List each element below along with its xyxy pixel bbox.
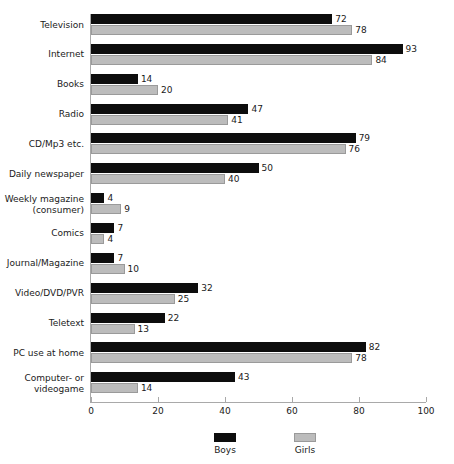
category-label: Books (0, 79, 84, 90)
chart-category-row: Television7278 (0, 14, 454, 44)
bar-value-label: 93 (406, 44, 417, 54)
category-label: Teletext (0, 318, 84, 329)
category-label: PC use at home (0, 348, 84, 359)
bar-value-label: 43 (238, 372, 249, 382)
bar-girls (91, 324, 135, 334)
bar-value-label: 76 (349, 144, 360, 154)
bar-boys (91, 372, 235, 382)
chart-category-row: Weekly magazine (consumer)49 (0, 193, 454, 223)
bar-value-label: 79 (359, 133, 370, 143)
bar-value-label: 7 (117, 223, 123, 233)
grouped-bar-chart: 020406080100 Television7278Internet9384B… (0, 0, 454, 464)
bar-girls (91, 383, 138, 393)
chart-category-row: Computer- or videogame4314 (0, 372, 454, 402)
bar-value-label: 14 (141, 383, 152, 393)
chart-category-row: Comics74 (0, 223, 454, 253)
bar-girls (91, 25, 352, 35)
category-label: Television (0, 20, 84, 31)
bar-value-label: 40 (228, 174, 239, 184)
category-label: Comics (0, 228, 84, 239)
bar-value-label: 82 (369, 342, 380, 352)
bar-boys (91, 104, 248, 114)
bar-boys (91, 283, 198, 293)
chart-category-row: PC use at home8278 (0, 342, 454, 372)
legend-swatch-boys (214, 433, 236, 442)
bar-boys (91, 14, 332, 24)
legend-entry-girls[interactable]: Girls (285, 433, 325, 455)
x-tick-label: 20 (152, 406, 163, 416)
bar-girls (91, 115, 228, 125)
bar-value-label: 32 (201, 283, 212, 293)
bar-boys (91, 193, 104, 203)
category-label: Journal/Magazine (0, 258, 84, 269)
bar-boys (91, 163, 259, 173)
chart-category-row: Video/DVD/PVR3225 (0, 283, 454, 313)
chart-legend: BoysGirls (90, 433, 426, 459)
bar-value-label: 25 (178, 294, 189, 304)
chart-category-row: Books1420 (0, 74, 454, 104)
x-tick-label: 60 (286, 406, 297, 416)
x-axis-line (90, 402, 426, 403)
category-label: CD/Mp3 etc. (0, 139, 84, 150)
bar-girls (91, 264, 125, 274)
bar-value-label: 50 (262, 163, 273, 173)
bar-boys (91, 223, 114, 233)
legend-entry-boys[interactable]: Boys (205, 433, 245, 455)
bar-value-label: 13 (138, 324, 149, 334)
bar-value-label: 14 (141, 74, 152, 84)
x-tick-label: 80 (353, 406, 364, 416)
bar-girls (91, 85, 158, 95)
legend-label: Boys (205, 445, 245, 455)
bar-boys (91, 74, 138, 84)
bar-value-label: 78 (355, 25, 366, 35)
bar-value-label: 7 (117, 253, 123, 263)
legend-label: Girls (285, 445, 325, 455)
category-label: Radio (0, 109, 84, 120)
category-label: Daily newspaper (0, 169, 84, 180)
bar-girls (91, 55, 372, 65)
bar-value-label: 78 (355, 353, 366, 363)
chart-category-row: Journal/Magazine710 (0, 253, 454, 283)
x-tick-label: 0 (88, 406, 94, 416)
category-label: Computer- or videogame (0, 373, 84, 395)
bar-value-label: 9 (124, 204, 130, 214)
bar-value-label: 20 (161, 85, 172, 95)
category-label: Internet (0, 49, 84, 60)
x-tick-label: 40 (219, 406, 230, 416)
bar-boys (91, 133, 356, 143)
category-label: Video/DVD/PVR (0, 288, 84, 299)
bar-value-label: 84 (375, 55, 386, 65)
category-label: Weekly magazine (consumer) (0, 194, 84, 216)
bar-value-label: 4 (107, 193, 113, 203)
bar-value-label: 22 (168, 313, 179, 323)
bar-girls (91, 204, 121, 214)
bar-value-label: 47 (251, 104, 262, 114)
bar-girls (91, 234, 104, 244)
bar-value-label: 41 (231, 115, 242, 125)
bar-boys (91, 44, 403, 54)
chart-category-row: CD/Mp3 etc.7976 (0, 133, 454, 163)
bar-value-label: 10 (128, 264, 139, 274)
bar-value-label: 72 (335, 14, 346, 24)
bar-boys (91, 313, 165, 323)
bar-girls (91, 353, 352, 363)
chart-category-row: Radio4741 (0, 104, 454, 134)
bar-girls (91, 174, 225, 184)
bar-boys (91, 253, 114, 263)
bar-value-label: 4 (107, 234, 113, 244)
legend-swatch-girls (294, 433, 316, 442)
chart-category-row: Teletext2213 (0, 313, 454, 343)
bar-boys (91, 342, 366, 352)
bar-girls (91, 294, 175, 304)
x-tick-label: 100 (417, 406, 434, 416)
bar-girls (91, 144, 346, 154)
chart-category-row: Daily newspaper5040 (0, 163, 454, 193)
chart-category-row: Internet9384 (0, 44, 454, 74)
